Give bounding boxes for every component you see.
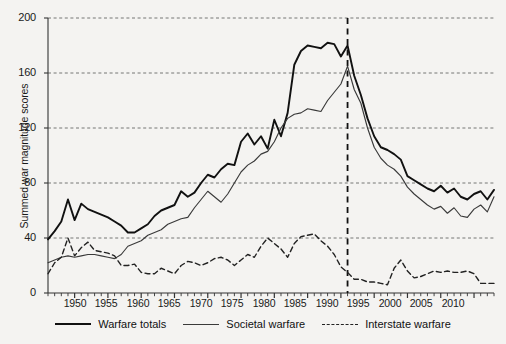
series-line-societal-warfare xyxy=(48,66,494,263)
legend-marker-solid-thick-line xyxy=(55,323,91,325)
legend-item-warfare-totals: Warfare totals xyxy=(55,318,166,330)
legend-marker-dashed-line xyxy=(322,324,358,325)
chart-figure: Summed war magnitude scores 200 160 120 … xyxy=(0,0,506,344)
legend-item-societal-warfare: Societal warfare xyxy=(183,318,305,330)
chart-plot-area xyxy=(0,0,506,344)
legend-marker-solid-thin-line xyxy=(183,324,219,325)
chart-legend: Warfare totals Societal warfare Intersta… xyxy=(0,318,506,330)
legend-label-warfare-totals: Warfare totals xyxy=(98,318,166,330)
series-line-interstate-warfare xyxy=(48,234,494,285)
legend-label-societal-warfare: Societal warfare xyxy=(226,318,305,330)
legend-label-interstate-warfare: Interstate warfare xyxy=(365,318,451,330)
x-tick-label-2010: 2010 xyxy=(433,297,473,309)
legend-item-interstate-warfare: Interstate warfare xyxy=(322,318,451,330)
series-line-warfare-totals xyxy=(48,43,494,240)
